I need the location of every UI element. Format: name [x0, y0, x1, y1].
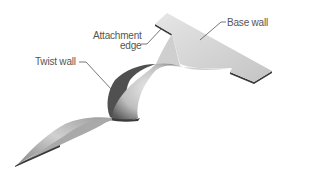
base-wall-label: Base wall: [227, 18, 268, 28]
twist-wall-leader: [79, 62, 112, 90]
attachment-edge-label-line2: edge: [120, 41, 141, 51]
twist-wall-label: Twist wall: [35, 57, 76, 67]
attachment-edge-leader: [141, 28, 162, 44]
